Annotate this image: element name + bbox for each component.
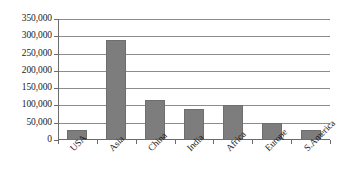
bar-asia (106, 40, 126, 140)
y-axis-tick-mark (54, 19, 58, 20)
bar-chart-screenshot: 050,000100,000150,000200,000250,000300,0… (0, 0, 340, 191)
y-axis-tick-label: 300,000 (0, 30, 52, 40)
y-axis-tick-label: 200,000 (0, 65, 52, 75)
x-axis-tick-mark (97, 140, 98, 144)
y-axis-tick-label: 350,000 (0, 13, 52, 23)
y-axis-tick-mark (54, 123, 58, 124)
y-axis-line (58, 19, 59, 140)
gridline (58, 54, 330, 55)
y-axis-tick-mark (54, 88, 58, 89)
gridline (58, 36, 330, 37)
y-axis-tick-mark (54, 36, 58, 37)
plot-area (58, 19, 330, 140)
x-axis-tick-mark (252, 140, 253, 144)
gridline (58, 71, 330, 72)
x-axis-tick-mark (58, 140, 59, 144)
gridline (58, 88, 330, 89)
y-axis-tick-label: 250,000 (0, 48, 52, 58)
y-axis-tick-label: 100,000 (0, 99, 52, 109)
y-axis-tick-mark (54, 54, 58, 55)
x-axis-tick-mark (291, 140, 292, 144)
y-axis-tick-mark (54, 71, 58, 72)
gridline (58, 105, 330, 106)
y-axis-tick-label: 50,000 (0, 117, 52, 127)
y-axis-tick-label: 0 (0, 134, 52, 144)
x-axis-tick-mark (213, 140, 214, 144)
x-axis-tick-mark (136, 140, 137, 144)
x-axis-tick-mark (175, 140, 176, 144)
y-axis-tick-mark (54, 105, 58, 106)
gridline (58, 19, 330, 20)
y-axis-tick-label: 150,000 (0, 82, 52, 92)
x-axis-tick-mark (330, 140, 331, 144)
